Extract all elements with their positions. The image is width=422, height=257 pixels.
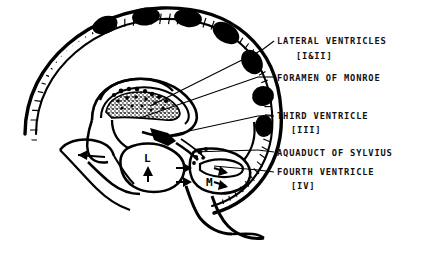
- label-aquaduct-of-sylvius: AQUADUCT OF SYLVIUS: [277, 147, 393, 159]
- label-fourth-ventricle-numeral: [IV]: [291, 180, 315, 192]
- label-foramen-of-monroe: FORAMEN OF MONROE: [277, 72, 381, 84]
- label-fourth-ventricle: FOURTH VENTRICLE: [277, 166, 374, 178]
- marker-m: M: [206, 176, 213, 189]
- ventricular-system: [60, 79, 264, 239]
- label-third-ventricle: THIRD VENTRICLE: [277, 110, 368, 122]
- marker-l: L: [144, 152, 151, 165]
- label-lateral-ventricles-numeral: [I&II]: [296, 50, 333, 62]
- figure-canvas: L M LATERAL VENTRICLES [I&II] FORAMEN OF…: [0, 0, 422, 257]
- label-lateral-ventricles: LATERAL VENTRICLES: [277, 35, 387, 47]
- label-third-ventricle-numeral: [III]: [291, 124, 321, 136]
